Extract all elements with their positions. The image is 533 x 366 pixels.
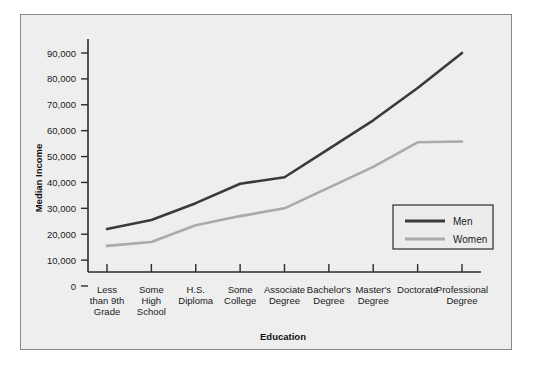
y-tick-label: 20,000 [47,229,76,240]
line-chart-svg: Median Income 010,00020,00030,00040,0005… [21,15,513,351]
y-axis-title: Median Income [33,144,44,213]
legend-label-men: Men [453,216,472,227]
x-tick-marks [107,264,462,272]
x-tick-label: SomeHighSchool [137,284,166,317]
x-tick-label: H.S.Diploma [178,284,214,306]
y-tick-label: 80,000 [47,73,76,84]
y-tick-label: 90,000 [47,48,76,59]
x-tick-label: AssociateDegree [264,284,305,306]
chart-figure: Median Income 010,00020,00030,00040,0005… [20,14,512,350]
x-tick-label: Master'sDegree [355,284,391,306]
x-tick-label: Lessthan 9thGrade [90,284,124,317]
y-tick-label: 70,000 [47,99,76,110]
chart-legend: MenWomen [393,205,493,249]
y-tick-label: 0 [71,281,76,292]
x-tick-labels: Lessthan 9thGradeSomeHighSchoolH.S.Diplo… [90,284,488,317]
x-axis-title: Education [260,331,306,342]
series-line-men [107,53,462,229]
legend-label-women: Women [453,234,487,245]
y-tick-label: 40,000 [47,177,76,188]
x-tick-label: Doctorate [397,284,438,295]
y-tick-label: 60,000 [47,125,76,136]
y-tick-labels: 010,00020,00030,00040,00050,00060,00070,… [47,48,76,292]
y-tick-label: 30,000 [47,203,76,214]
y-tick-label: 10,000 [47,255,76,266]
x-tick-label: Bachelor'sDegree [307,284,351,306]
plot-area: Median Income 010,00020,00030,00040,0005… [21,15,513,351]
y-tick-marks [81,53,88,286]
x-tick-label: SomeCollege [224,284,256,306]
y-tick-label: 50,000 [47,151,76,162]
x-tick-label: ProfessionalDegree [436,284,488,306]
